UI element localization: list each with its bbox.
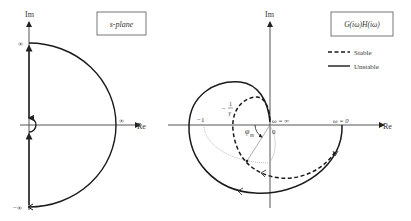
- legend-unstable-label: Unstable: [354, 63, 379, 71]
- nyquist-plot-panel: Im Re −1 − 1 γ φ m ω = ∞ ω = 0 0 G(iω)H(…: [168, 10, 393, 208]
- gain-crossover-point: [246, 160, 249, 163]
- svg-text:γ: γ: [229, 110, 232, 116]
- omega-zero-label: ω = 0: [333, 117, 349, 124]
- svg-text:−: −: [222, 105, 226, 113]
- legend: Stable Unstable: [328, 49, 379, 71]
- minus-one-label: −1: [197, 116, 205, 124]
- transfer-function-title: G(iω)H(iω): [344, 20, 380, 29]
- left-inf-bottom-label: −∞: [13, 204, 22, 212]
- phase-margin-line: [247, 125, 270, 161]
- left-inf-top-label: ∞: [18, 40, 23, 48]
- legend-stable-label: Stable: [354, 49, 372, 57]
- stable-curve: [233, 97, 335, 178]
- phase-margin-arc: [255, 125, 262, 137]
- s-plane-panel: Im Re ∞ −∞ ∞ s-plane: [13, 10, 146, 212]
- left-im-label: Im: [25, 10, 35, 19]
- right-im-label: Im: [265, 10, 275, 19]
- svg-text:m: m: [250, 132, 254, 138]
- left-re-label: Re: [137, 122, 146, 131]
- unit-circle-arc: [204, 125, 270, 163]
- unstable-curve: [189, 82, 342, 193]
- minus-inverse-gamma-label: − 1 γ: [222, 101, 233, 116]
- nyquist-diagram: Im Re ∞ −∞ ∞ s-plane Im Re −1: [0, 0, 411, 221]
- origin-label: 0: [272, 128, 276, 136]
- svg-text:1: 1: [229, 101, 232, 107]
- omega-inf-label: ω = ∞: [272, 117, 289, 124]
- s-plane-title: s-plane: [110, 20, 134, 29]
- right-re-label: Re: [383, 122, 392, 131]
- phase-margin-label: φ m: [245, 127, 254, 138]
- left-inf-right-label: ∞: [119, 117, 124, 125]
